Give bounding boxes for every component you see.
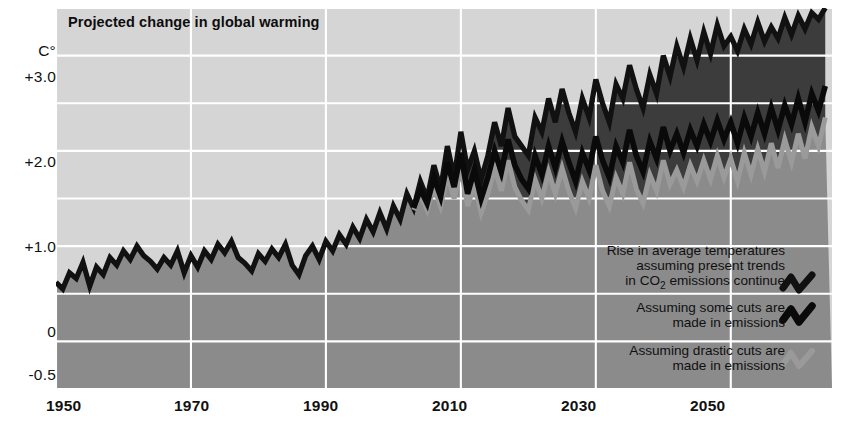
legend-label-line: Assuming drastic cuts are bbox=[629, 343, 785, 358]
x-tick-1950: 1950 bbox=[46, 397, 81, 415]
legend-label-line: made in emissions bbox=[629, 358, 785, 373]
legend-entry-present-trends: Rise in average temperatures assuming pr… bbox=[607, 243, 785, 293]
x-tick-2050: 2050 bbox=[690, 397, 725, 415]
legend-label-line: assuming present trends bbox=[607, 258, 785, 273]
y-tick-3.0: +3.0 bbox=[25, 68, 56, 86]
y-tick-2.0: +2.0 bbox=[25, 153, 56, 171]
legend-entry-drastic-cuts: Assuming drastic cuts are made in emissi… bbox=[629, 343, 785, 373]
x-tick-1970: 1970 bbox=[174, 397, 209, 415]
chart-title: Projected change in global warming bbox=[68, 14, 320, 30]
x-tick-1990: 1990 bbox=[303, 397, 338, 415]
y-tick-0: 0 bbox=[47, 323, 56, 341]
y-axis-unit: C° bbox=[38, 42, 56, 60]
chart-figure: Projected change in global warming C° +3… bbox=[0, 0, 847, 432]
x-tick-2010: 2010 bbox=[432, 397, 467, 415]
legend-label-line: Rise in average temperatures bbox=[607, 243, 785, 258]
legend-label-line: made in emissions bbox=[636, 315, 785, 330]
legend-entry-some-cuts: Assuming some cuts are made in emissions bbox=[636, 300, 785, 330]
legend-label-line: in CO2 emissions continue bbox=[607, 273, 785, 293]
x-tick-2030: 2030 bbox=[561, 397, 596, 415]
legend-label-line: Assuming some cuts are bbox=[636, 300, 785, 315]
y-tick-1.0: +1.0 bbox=[25, 238, 56, 256]
y-tick--0.5: -0.5 bbox=[28, 366, 56, 384]
